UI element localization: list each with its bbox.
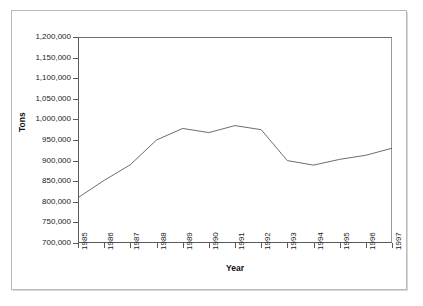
x-axis-tick-label: 1992 [264, 232, 272, 250]
y-axis-tick [73, 222, 78, 223]
x-axis-tick-label: 1990 [212, 232, 220, 250]
x-axis-tick [366, 243, 367, 248]
y-axis-tick [73, 161, 78, 162]
x-axis-tick [340, 243, 341, 248]
x-axis-tick-label: 1993 [290, 232, 298, 250]
x-axis-tick [183, 243, 184, 248]
x-axis-tick [261, 243, 262, 248]
x-axis-tick [130, 243, 131, 248]
y-axis-tick-label: 1,100,000 [35, 74, 71, 82]
y-axis-tick-label: 1,150,000 [35, 54, 71, 62]
x-axis-tick-label: 1996 [369, 232, 377, 250]
x-axis-tick [157, 243, 158, 248]
y-axis-tick [73, 202, 78, 203]
y-axis-title: Tons [18, 112, 27, 132]
x-axis-tick-label: 1989 [186, 232, 194, 250]
x-axis-tick [392, 243, 393, 248]
y-axis-tick-label: 900,000 [42, 157, 71, 165]
y-axis-tick-label: 700,000 [42, 239, 71, 247]
x-axis-tick-label: 1995 [343, 232, 351, 250]
x-axis-tick-label: 1986 [107, 232, 115, 250]
x-axis-tick [78, 243, 79, 248]
x-axis-tick-label: 1988 [160, 232, 168, 250]
x-axis-title: Year [78, 264, 392, 273]
x-axis-tick-label: 1987 [133, 232, 141, 250]
line-chart: 1,200,0001,150,0001,100,0001,050,0001,00… [0, 0, 423, 306]
y-axis-tick-label: 950,000 [42, 136, 71, 144]
y-axis-tick [73, 58, 78, 59]
x-axis-tick [287, 243, 288, 248]
y-axis-tick [73, 140, 78, 141]
x-axis-tick [104, 243, 105, 248]
x-axis-tick-label: 1985 [81, 232, 89, 250]
x-axis-tick [235, 243, 236, 248]
series-line-tons [78, 126, 392, 198]
x-axis-tick-label: 1991 [238, 232, 246, 250]
y-axis-tick-label: 850,000 [42, 177, 71, 185]
y-axis-tick [73, 99, 78, 100]
y-axis-tick [73, 181, 78, 182]
y-axis-tick [73, 37, 78, 38]
y-axis-tick-label: 800,000 [42, 198, 71, 206]
series-layer [78, 37, 392, 243]
y-axis-tick [73, 119, 78, 120]
x-axis-tick-label: 1997 [395, 232, 403, 250]
x-axis-tick [314, 243, 315, 248]
y-axis-tick [73, 78, 78, 79]
y-axis-tick-label: 1,000,000 [35, 115, 71, 123]
y-axis-tick-label: 1,200,000 [35, 33, 71, 41]
x-axis-tick-label: 1994 [317, 232, 325, 250]
y-axis-tick-label: 750,000 [42, 218, 71, 226]
y-axis-tick-label: 1,050,000 [35, 95, 71, 103]
x-axis-tick [209, 243, 210, 248]
